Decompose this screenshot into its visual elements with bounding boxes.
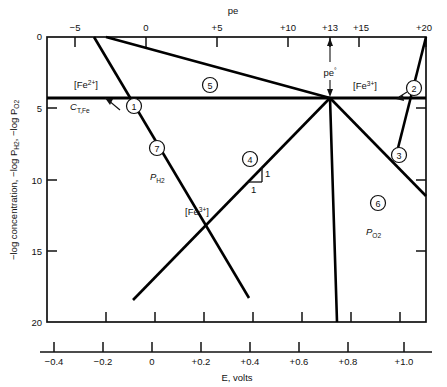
- chart-svg: pe −5 0 +5 +10 +13 +15 +20 0 5 10 15 20: [0, 0, 447, 387]
- bottom-axis-title: E, volts: [221, 372, 252, 383]
- marker-7: 7: [150, 141, 165, 156]
- bottom-tick-label: +1.0: [395, 356, 414, 367]
- marker-1-label: 1: [131, 102, 136, 112]
- bottom-tick-label: −0.2: [94, 356, 113, 367]
- bottom-tick-label: 0: [149, 356, 154, 367]
- slope-run-label: 1: [251, 184, 256, 195]
- top-tick-label: +5: [212, 22, 223, 33]
- bottom-tick-label: +0.2: [192, 356, 211, 367]
- annotation-fe2-label: [Fe2+]: [74, 79, 98, 90]
- y-axis-title: −log concentration, −log PH2, −log PO2: [8, 100, 20, 260]
- marker-5: 5: [203, 78, 218, 93]
- top-tick-label: +13: [322, 22, 338, 33]
- y-axis-title-part1: −log concentration, −log P: [8, 150, 19, 260]
- marker-2-label: 2: [411, 84, 416, 94]
- slope-rise-label: 1: [265, 168, 270, 179]
- left-tick-label: 0: [37, 31, 42, 42]
- marker-6: 6: [371, 196, 386, 211]
- bottom-tick-label: +0.4: [241, 356, 260, 367]
- bottom-tick-label: +0.8: [339, 356, 358, 367]
- marker-6-label: 6: [375, 199, 380, 209]
- marker-4-label: 4: [247, 155, 252, 165]
- y-axis-title-sub-2b: 2: [13, 100, 20, 104]
- top-tick-label: +20: [416, 22, 432, 33]
- svg-text:−log concentration, −log PH2,: −log concentration, −log PH2, −log PO2: [8, 100, 20, 260]
- marker-7-label: 7: [154, 144, 159, 154]
- top-tick-label: −5: [70, 22, 81, 33]
- left-tick-label: 10: [31, 175, 42, 186]
- marker-4: 4: [243, 152, 258, 167]
- left-tick-label: 15: [31, 246, 42, 257]
- left-tick-label: 5: [37, 103, 42, 114]
- redox-equilibrium-diagram: pe −5 0 +5 +10 +13 +15 +20 0 5 10 15 20: [0, 0, 447, 387]
- top-tick-label: +15: [353, 22, 369, 33]
- top-axis-title: pe: [228, 5, 239, 16]
- left-tick-label: 20: [31, 317, 42, 328]
- marker-3-label: 3: [396, 151, 401, 161]
- marker-1: 1: [127, 99, 142, 114]
- marker-5-label: 5: [207, 81, 212, 91]
- y-axis-title-part2: , −log P: [8, 109, 19, 141]
- marker-2: 2: [407, 81, 422, 96]
- chart-background: [0, 0, 447, 387]
- top-tick-label: 0: [143, 22, 148, 33]
- top-tick-label: +10: [280, 22, 296, 33]
- marker-3: 3: [392, 148, 407, 163]
- bottom-tick-label: −0.4: [45, 356, 64, 367]
- annotation-fe3-center-label: [Fe3+]: [185, 206, 209, 217]
- annotation-fe3-right-label: [Fe3+]: [353, 80, 377, 91]
- bottom-tick-label: +0.6: [290, 356, 309, 367]
